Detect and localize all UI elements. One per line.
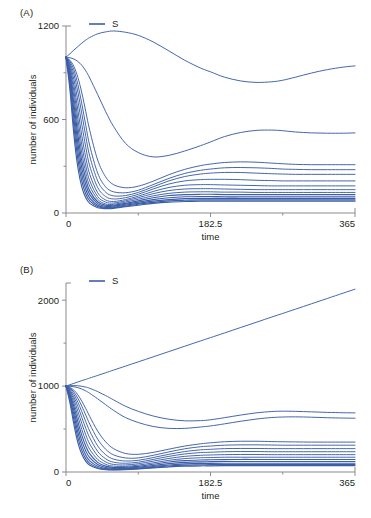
svg-text:1000: 1000 [38,380,59,391]
svg-text:0: 0 [66,477,71,488]
curve-S3 [66,57,355,188]
curve-S2 [66,386,355,421]
y-axis-label: number of individuals [27,74,38,164]
curve-S6 [66,57,355,199]
svg-text:182.5: 182.5 [199,218,223,229]
panel-b-plot: 0100020000182.5365timenumber of individu… [0,259,371,518]
curve-S12 [66,386,355,469]
curve-S3 [66,386,355,428]
svg-text:1200: 1200 [38,20,59,31]
svg-text:0: 0 [66,218,71,229]
curve-S9 [66,57,355,204]
curve-S1 [66,31,355,82]
svg-text:0: 0 [54,466,59,477]
curve-S4 [66,57,355,193]
curve-S5 [66,386,355,458]
y-axis-label: number of individuals [27,332,38,422]
svg-text:2000: 2000 [38,295,59,306]
legend-label-s: S [112,275,118,286]
svg-text:182.5: 182.5 [199,477,223,488]
svg-text:0: 0 [54,207,59,218]
x-axis-label: time [202,231,220,242]
chart-panel-b: (B) 0100020000182.5365timenumber of indi… [0,259,371,518]
curve-S10 [66,57,355,205]
figure-container: (A) 060012000182.5365timenumber of indiv… [0,0,371,518]
curve-S7 [66,57,355,201]
svg-text:365: 365 [339,477,355,488]
panel-a-plot: 060012000182.5365timenumber of individua… [0,0,371,259]
curve-S11 [66,386,355,468]
curve-S5 [66,57,355,196]
svg-text:600: 600 [43,114,59,125]
svg-text:365: 365 [339,218,355,229]
chart-panel-a: (A) 060012000182.5365timenumber of indiv… [0,0,371,259]
x-axis-label: time [202,490,220,501]
legend-label-s: S [112,18,118,29]
curve-S1 [66,289,355,386]
